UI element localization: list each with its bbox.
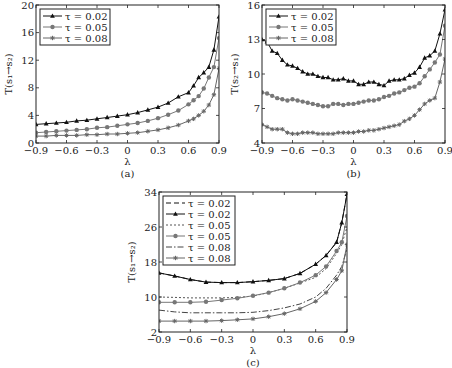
star-marker (275, 127, 279, 131)
star-marker (340, 269, 344, 273)
circle-marker (219, 298, 223, 302)
star-marker (290, 132, 294, 136)
circle-marker (191, 98, 195, 102)
y-axis-label: T(s₁→s₂) (126, 241, 137, 282)
triangle-marker (438, 31, 443, 35)
x-tick-label: −0.3 (311, 145, 335, 156)
x-tick-label: 0.9 (211, 145, 227, 156)
y-tick-label: 16 (21, 27, 34, 38)
star-marker (115, 132, 119, 136)
star-marker (85, 133, 89, 137)
triangle-marker (166, 100, 171, 104)
circle-marker (336, 102, 340, 106)
circle-marker (295, 98, 299, 102)
x-tick-label: 0.6 (308, 334, 324, 345)
legend-label: τ = 0.08 (291, 33, 334, 44)
star-marker (266, 314, 270, 318)
star-marker (377, 127, 381, 131)
star-marker (276, 36, 280, 40)
y-tick-label: 10 (144, 292, 157, 303)
star-marker (361, 129, 365, 133)
circle-marker (125, 122, 129, 126)
star-marker (202, 109, 206, 113)
star-marker (251, 317, 255, 321)
y-tick-label: 8 (28, 82, 34, 93)
star-marker (438, 80, 442, 84)
legend-label: τ = 0.05 (291, 22, 334, 33)
star-marker (196, 113, 200, 117)
star-marker (204, 319, 208, 323)
circle-marker (54, 129, 58, 133)
star-marker (341, 130, 345, 134)
circle-marker (387, 94, 391, 98)
legend-label: τ = 0.02 (188, 209, 231, 220)
star-marker (146, 129, 150, 133)
triangle-marker (417, 65, 422, 69)
circle-marker (311, 102, 315, 106)
star-marker (285, 130, 289, 134)
y-tick-label: 20 (21, 0, 34, 11)
y-tick-label: 12 (21, 55, 34, 66)
subplot-c: −0.9−0.6−0.300.30.60.9210182634λ(c)T(s₁→… (126, 187, 355, 368)
star-marker (402, 119, 406, 123)
circle-marker (407, 86, 411, 90)
circle-marker (50, 25, 54, 29)
x-axis-label: λ (350, 156, 357, 167)
x-tick-label: 0.9 (339, 334, 355, 345)
circle-marker (321, 104, 325, 108)
y-tick-label: 7 (254, 103, 260, 114)
y-axis-label: T(s₂→s₁) (229, 53, 240, 94)
circle-marker (316, 103, 320, 107)
circle-marker (188, 300, 192, 304)
panel-caption: (c) (246, 357, 260, 368)
legend: τ = 0.02τ = 0.05τ = 0.08 (40, 9, 110, 45)
star-marker (300, 130, 304, 134)
circle-marker (202, 86, 206, 90)
circle-marker (340, 240, 344, 244)
circle-marker (428, 67, 432, 71)
triangle-marker (432, 48, 437, 52)
circle-marker (173, 234, 177, 238)
y-tick-label: 26 (144, 222, 157, 233)
star-marker (321, 132, 325, 136)
star-marker (176, 123, 180, 127)
star-marker (95, 133, 99, 137)
star-marker (316, 132, 320, 136)
x-tick-label: 0 (124, 145, 130, 156)
circle-marker (351, 102, 355, 106)
circle-marker (95, 126, 99, 130)
star-marker (313, 299, 317, 303)
y-tick-label: 4 (254, 138, 260, 149)
circle-marker (275, 96, 279, 100)
star-marker (44, 134, 48, 138)
legend: τ = 0.02τ = 0.02τ = 0.05τ = 0.05τ = 0.08… (163, 196, 235, 265)
x-axis-label: λ (124, 156, 131, 167)
panel-caption: (a) (121, 168, 135, 179)
star-marker (295, 132, 299, 136)
circle-marker (135, 121, 139, 125)
star-marker (172, 319, 176, 323)
x-axis-label: λ (250, 345, 257, 356)
circle-marker (115, 124, 119, 128)
subplot-a: −0.9−0.6−0.300.30.60.9048121620λ(a)T(s₁→… (3, 0, 227, 179)
star-marker (212, 93, 216, 97)
circle-marker (64, 128, 68, 132)
circle-marker (282, 286, 286, 290)
circle-marker (346, 102, 350, 106)
y-tick-label: 0 (28, 138, 34, 149)
star-marker (346, 130, 350, 134)
star-marker (311, 130, 315, 134)
star-marker (156, 128, 160, 132)
y-tick-label: 13 (247, 34, 260, 45)
circle-marker (334, 249, 338, 253)
star-marker (219, 318, 223, 322)
star-marker (331, 132, 335, 136)
subplot-b: −0.9−0.6−0.300.30.60.947101316λ(b)T(s₂→s… (229, 0, 452, 179)
star-marker (207, 103, 211, 107)
star-marker (334, 277, 338, 281)
circle-marker (74, 128, 78, 132)
legend-label: τ = 0.05 (188, 220, 231, 231)
star-marker (105, 132, 109, 136)
x-tick-label: 0.3 (376, 145, 392, 156)
x-tick-label: 0 (350, 145, 356, 156)
